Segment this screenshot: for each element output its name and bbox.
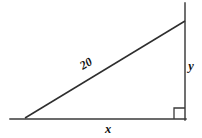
geometry-diagram: 20 y x: [0, 0, 202, 138]
horizontal-leg-label: x: [104, 122, 111, 136]
triangle-figure: 20 y x: [0, 0, 202, 138]
vertical-leg-label: y: [186, 59, 194, 73]
diagram-background: [0, 0, 202, 138]
